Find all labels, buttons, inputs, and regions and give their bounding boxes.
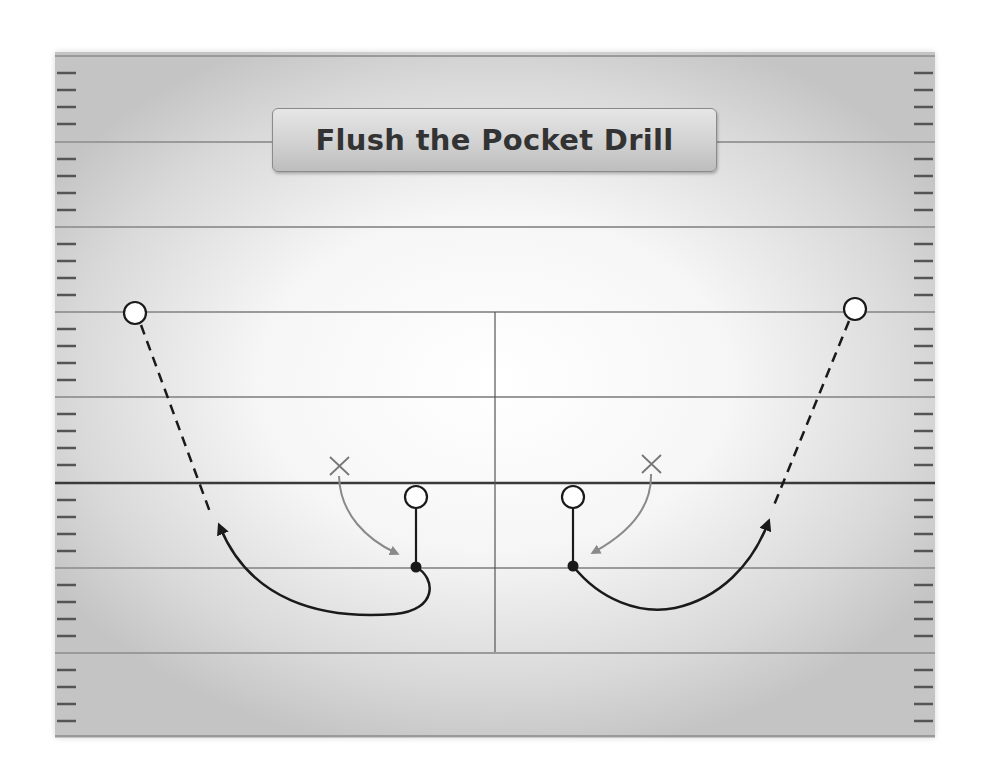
left-receiver-icon [124, 302, 146, 324]
right-qb-scramble-route [573, 523, 768, 610]
diagram-title: Flush the Pocket Drill [316, 123, 674, 157]
left-defender-rush-route [339, 476, 396, 553]
right-quarterback-icon [562, 486, 584, 508]
title-banner: Flush the Pocket Drill [272, 108, 717, 172]
right-defender-x-icon [642, 455, 661, 473]
right-qb-drop-point [568, 561, 579, 572]
left-qb-drop-point [411, 562, 422, 573]
right-defender-rush-route [594, 474, 651, 552]
left-defender-x-icon [330, 457, 349, 475]
left-qb-scramble-route [220, 527, 430, 615]
right-pass-route [772, 321, 849, 510]
left-quarterback-icon [405, 486, 427, 508]
right-receiver-icon [844, 298, 866, 320]
